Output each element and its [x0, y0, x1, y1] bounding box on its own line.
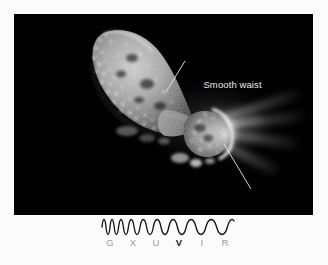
- band-label-xray: X: [126, 237, 140, 248]
- active-lobe: [184, 109, 241, 159]
- band-label-ultraviolet: U: [149, 237, 163, 248]
- band-label-infrared: I: [195, 237, 209, 248]
- band-label-gamma: G: [103, 237, 117, 248]
- electromagnetic-spectrum-indicator: G X U V I R: [100, 214, 236, 258]
- comet-photo-svg: [14, 14, 313, 215]
- annotation-smooth-waist: Smooth waist: [187, 68, 262, 101]
- band-label-visible: V: [172, 237, 186, 248]
- spectrum-band-labels: G X U V I R: [100, 237, 236, 253]
- annotation-jets: Jets of dust and gas: [252, 201, 302, 215]
- figure-container: Smooth waist Jets of dust and gas G X U …: [0, 0, 328, 265]
- band-label-radio: R: [218, 237, 232, 248]
- annotation-smooth-waist-text: Smooth waist: [203, 79, 261, 90]
- comet-photo: Smooth waist Jets of dust and gas: [14, 14, 313, 215]
